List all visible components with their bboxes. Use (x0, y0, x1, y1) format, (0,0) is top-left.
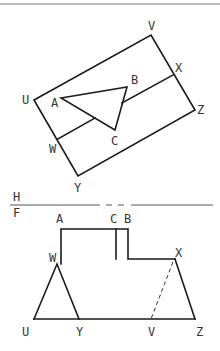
projection-diagram: U V X Z W Y A B C H F A C B W X U (0, 0, 220, 351)
label-y-top: Y (74, 181, 82, 195)
label-c-front: C (110, 212, 117, 226)
label-u-top: U (22, 93, 29, 107)
front-block-outline (61, 229, 175, 264)
divider-line-left (58, 118, 95, 139)
label-f: F (13, 206, 20, 220)
edge-xz (175, 259, 195, 319)
label-a-front: A (56, 212, 64, 226)
label-u-front: U (22, 325, 29, 339)
top-view: U V X Z W Y A B C (22, 19, 204, 195)
label-z-top: Z (197, 103, 204, 117)
label-w-front: W (49, 251, 57, 265)
label-w-top: W (49, 142, 57, 156)
divider-line-right (122, 75, 173, 103)
front-view: A C B W X U Y V Z (22, 212, 203, 339)
label-b-top: B (131, 73, 138, 87)
label-x-front: X (175, 246, 183, 260)
hidden-edge-xv (151, 262, 173, 319)
label-z-front: Z (196, 325, 203, 339)
label-c-top: C (111, 134, 118, 148)
label-a-top: A (51, 96, 59, 110)
label-x-top: X (175, 61, 183, 75)
triangle-abc (61, 87, 127, 130)
label-h: H (13, 190, 20, 204)
label-v-front: V (148, 325, 155, 339)
label-y-front: Y (76, 325, 84, 339)
triangle-uwy (34, 264, 79, 319)
label-b-front: B (124, 212, 131, 226)
label-v-top: V (148, 19, 155, 33)
